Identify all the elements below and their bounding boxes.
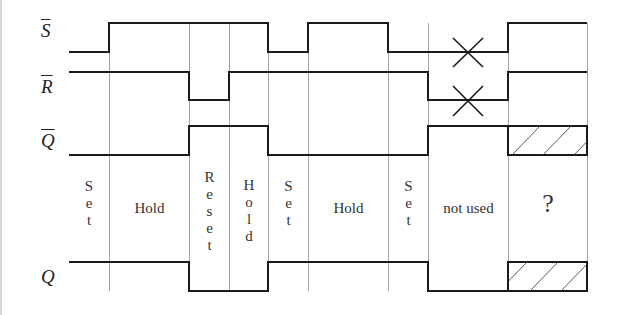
- timing-diagram: S R Q Q: [0, 0, 618, 315]
- waveform-canvas: [0, 0, 618, 315]
- phase-label-set-3: S e t: [389, 178, 428, 229]
- phase-label-not-used: not used: [429, 200, 508, 217]
- phase-label-reset: R e s e t: [190, 169, 229, 254]
- waveform-r-bar: [69, 72, 587, 100]
- hatch-q: [497, 260, 591, 293]
- phase-label-hold-1: Hold: [110, 200, 189, 217]
- waveform-q-bar: [69, 126, 508, 155]
- phase-label-hold-3: Hold: [309, 200, 388, 217]
- waveform-q: [69, 262, 508, 291]
- phase-boundaries: [110, 23, 588, 291]
- phase-label-set-1: S e t: [76, 178, 102, 229]
- phase-label-set-2: S e t: [269, 178, 308, 229]
- phase-label-hold-2: H o l d: [230, 177, 268, 245]
- hatch-q-bar: [510, 124, 604, 157]
- waveform-s-bar: [69, 23, 587, 52]
- waveforms: [69, 23, 587, 291]
- phase-label-unknown: ?: [509, 190, 587, 218]
